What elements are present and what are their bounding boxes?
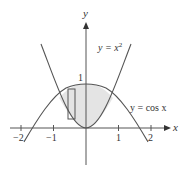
parabola-label: y = x2 [97, 41, 123, 53]
y-axis-arrow-icon [83, 22, 89, 29]
x-tick-label-1: 1 [116, 132, 121, 143]
graph: y x −2 −1 1 2 1 y = x2 y = cos x [0, 0, 183, 170]
x-tick-label-neg1: −1 [46, 132, 57, 143]
y-axis-label: y [82, 7, 88, 19]
x-axis-label: x [172, 121, 178, 133]
x-tick-label-neg2: −2 [13, 132, 24, 143]
y-tick-label-1: 1 [78, 72, 83, 83]
area-between-curves-figure: y x −2 −1 1 2 1 y = x2 y = cos x [0, 0, 183, 170]
x-axis-arrow-icon [164, 125, 171, 131]
cosine-label: y = cos x [130, 102, 166, 113]
x-tick-label-2: 2 [148, 132, 153, 143]
